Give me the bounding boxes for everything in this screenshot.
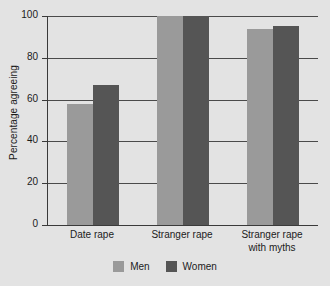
y-axis-tick-mark [42,225,48,226]
y-axis-tick-label: 0 [32,218,38,229]
legend-item-women[interactable]: Women [166,261,217,272]
bar-men-0 [67,104,93,225]
y-axis-tick-label: 40 [27,134,38,145]
legend-swatch-icon [113,261,124,272]
bar-group [157,16,209,225]
y-axis-title-text: Percentage agreeing [8,65,19,160]
x-axis-label: Stranger rape with myths [227,229,317,254]
bar-series-container [48,16,318,225]
x-axis-label: Date rape [47,229,137,242]
legend-label: Men [130,261,149,272]
y-axis-tick-label: 80 [27,51,38,62]
legend-item-men[interactable]: Men [113,261,149,272]
y-axis-tick-label: 60 [27,93,38,104]
bar-women-1 [183,16,209,225]
bar-group [67,16,119,225]
bar-men-2 [247,29,273,225]
plot-area: 020406080100 [47,16,318,226]
y-axis-tick-label: 20 [27,176,38,187]
x-axis-label: Stranger rape [137,229,227,242]
bar-women-2 [273,26,299,225]
x-axis-labels: Date rapeStranger rapeStranger rape with… [47,229,317,259]
legend-swatch-icon [166,261,177,272]
bar-group [247,16,299,225]
chart-legend: MenWomen [0,261,330,272]
bar-men-1 [157,16,183,225]
legend-label: Women [183,261,217,272]
bar-women-0 [93,85,119,225]
chart-figure: Percentage agreeing 020406080100 Date ra… [0,0,330,286]
y-axis-title: Percentage agreeing [4,0,22,225]
y-axis-tick-label: 100 [21,9,38,20]
